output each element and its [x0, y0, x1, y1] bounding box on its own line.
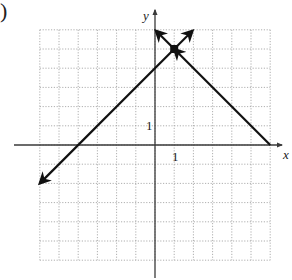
coordinate-plane [0, 0, 292, 280]
y-tick-label-1: 1 [146, 118, 153, 134]
part-label: ) [0, 0, 7, 24]
vertex-marker [170, 45, 178, 53]
x-axis-label: x [283, 147, 289, 163]
axes [14, 10, 282, 278]
x-tick-label-1: 1 [172, 149, 179, 165]
y-axis-label: y [143, 8, 149, 24]
